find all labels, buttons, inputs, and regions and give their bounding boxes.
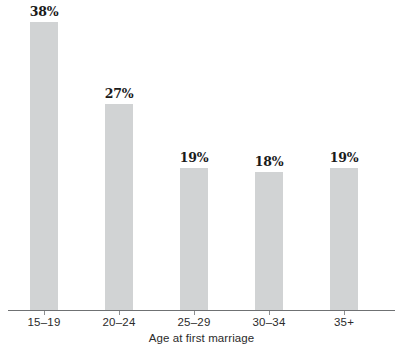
- bar-value-label: 18%: [255, 154, 284, 169]
- x-axis-line: [8, 310, 395, 311]
- bar-value-label: 19%: [330, 150, 359, 165]
- bar-value-label: 38%: [30, 4, 59, 19]
- tick-label-2024: 20–24: [103, 316, 136, 328]
- bar-rect[interactable]: [255, 172, 283, 310]
- bar-value-label: 19%: [180, 150, 209, 165]
- axis-tick: [119, 311, 120, 315]
- bar-3034[interactable]: 18%: [255, 172, 283, 310]
- axis-tick: [194, 311, 195, 315]
- tick-label-35+: 35+: [334, 316, 354, 328]
- axis-tick: [44, 311, 45, 315]
- axis-tick: [344, 311, 345, 315]
- tick-label-2529: 25–29: [178, 316, 211, 328]
- bar-rect[interactable]: [330, 168, 358, 310]
- bar-rect[interactable]: [105, 104, 133, 310]
- x-axis-title: Age at first marriage: [0, 332, 403, 344]
- bar-chart: 38%27%19%18%19% 15–1920–2425–2930–3435+ …: [0, 0, 403, 350]
- tick-label-1519: 15–19: [28, 316, 61, 328]
- bar-1519[interactable]: 38%: [30, 22, 58, 310]
- bar-35+[interactable]: 19%: [330, 168, 358, 310]
- tick-label-3034: 30–34: [253, 316, 286, 328]
- bar-2529[interactable]: 19%: [180, 168, 208, 310]
- bar-rect[interactable]: [30, 22, 58, 310]
- axis-tick: [269, 311, 270, 315]
- bar-value-label: 27%: [105, 86, 134, 101]
- bar-2024[interactable]: 27%: [105, 104, 133, 310]
- bar-rect[interactable]: [180, 168, 208, 310]
- plot-area: 38%27%19%18%19%: [0, 0, 403, 310]
